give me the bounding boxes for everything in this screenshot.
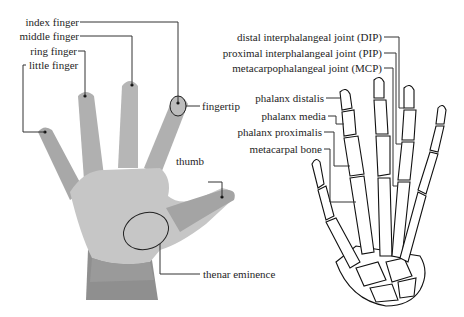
skeleton-illustration bbox=[312, 77, 446, 306]
label-mcp-joint: metacarpophalangeal joint (MCP) bbox=[200, 62, 382, 74]
label-little-finger: little finger bbox=[29, 59, 78, 71]
label-phalanx-media: phalanx media bbox=[230, 110, 326, 122]
label-phalanx-distalis: phalanx distalis bbox=[230, 92, 324, 104]
label-pip-joint: proximal interphalangeal joint (PIP) bbox=[200, 47, 382, 59]
label-ring-finger: ring finger bbox=[0, 45, 77, 57]
label-dip-joint: distal interphalangeal joint (DIP) bbox=[200, 31, 382, 43]
label-phalanx-proximalis: phalanx proximalis bbox=[220, 126, 322, 138]
label-middle-finger: middle finger bbox=[0, 30, 79, 42]
label-thumb: thumb bbox=[176, 155, 204, 167]
label-index-finger: index finger bbox=[0, 16, 79, 28]
label-thenar-eminence: thenar eminence bbox=[203, 268, 275, 280]
label-metacarpal-bone: metacarpal bone bbox=[220, 143, 322, 155]
